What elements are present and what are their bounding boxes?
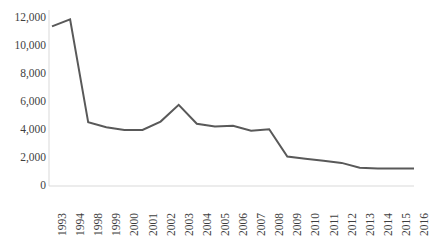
x-axis-tick-label: 1999 <box>111 213 123 236</box>
x-axis-tick-label: 2004 <box>202 213 214 236</box>
x-axis-tick-label: 2002 <box>166 213 178 236</box>
x-axis-tick-label: 2013 <box>365 213 377 236</box>
x-axis-tick-label: 2010 <box>310 213 322 236</box>
x-axis-tick-label: 1994 <box>75 213 87 236</box>
x-axis-tick-label: 2009 <box>292 213 304 236</box>
x-axis-tick-label: 2007 <box>256 213 268 236</box>
x-axis-tick-label: 2016 <box>419 213 431 236</box>
x-axis-tick-label: 2012 <box>347 213 359 236</box>
x-axis-tick-label: 2014 <box>383 213 395 236</box>
x-axis-tick-label: 2005 <box>220 213 232 236</box>
x-axis-tick-label: 2006 <box>238 213 250 236</box>
x-axis-tick-label: 1998 <box>93 213 105 236</box>
x-axis-tick-label: 1993 <box>57 213 69 236</box>
x-axis-tick-label: 2003 <box>184 213 196 236</box>
x-axis-tick-label: 2011 <box>329 213 341 236</box>
x-axis-tick-label: 2001 <box>148 213 160 236</box>
x-axis-tick-label: 2000 <box>129 213 141 236</box>
x-axis-tick-label: 2015 <box>401 213 413 236</box>
x-axis-tick-label: 2008 <box>274 213 286 236</box>
